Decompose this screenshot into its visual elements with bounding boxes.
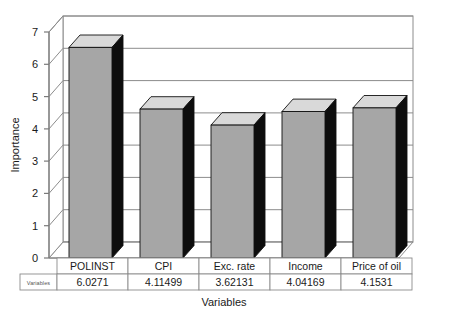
table-header-row: POLINST CPI Exc. rate Income Price of oi… [57, 258, 412, 274]
bar-side-face [183, 97, 194, 258]
bar-front-face [69, 47, 112, 258]
bar-side-face [112, 35, 123, 258]
bar-chart-3d: 7 6 5 4 3 2 1 0 Importance [0, 0, 449, 320]
table-header-cell-0: POLINST [70, 260, 116, 272]
y-tick-label-6: 6 [32, 58, 38, 70]
chart-figure: 7 6 5 4 3 2 1 0 Importance [0, 0, 449, 320]
table-value-cell-0: 6.0271 [76, 276, 108, 288]
table-header-cell-1: CPI [155, 260, 173, 272]
bar-front-face [211, 125, 254, 258]
y-axis: 7 6 5 4 3 2 1 0 [32, 26, 49, 264]
bar-side-face [254, 113, 265, 258]
bar-side-face [325, 99, 336, 258]
bar-side-face [396, 96, 407, 259]
y-axis-title: Importance [9, 117, 21, 172]
y-tick-label-7: 7 [32, 26, 38, 38]
table-value-cell-2: 3.62131 [216, 276, 254, 288]
bar-price-of-oil [353, 96, 407, 259]
bar-front-face [140, 109, 183, 258]
table-value-cell-1: 4.11499 [145, 276, 182, 288]
table-value-row: Variables 6.0271 4.11499 3.62131 4.04169… [20, 274, 412, 290]
bar-income [282, 99, 336, 258]
bar-exc-rate [211, 113, 265, 258]
y-tick-label-4: 4 [32, 123, 38, 135]
bar-front-face [353, 108, 396, 258]
data-table: POLINST CPI Exc. rate Income Price of oi… [20, 258, 412, 290]
table-header-cell-2: Exc. rate [214, 260, 256, 272]
y-tick-label-0: 0 [32, 252, 38, 264]
table-row-header-label: Variables [27, 280, 51, 286]
y-tick-label-5: 5 [32, 91, 38, 103]
bar-polinst [69, 35, 123, 258]
table-value-cell-4: 4.1531 [360, 276, 392, 288]
table-header-cell-3: Income [288, 260, 323, 272]
bar-cpi [140, 97, 194, 258]
y-tick-label-3: 3 [32, 155, 38, 167]
bar-front-face [282, 112, 325, 259]
x-axis-title: Variables [201, 296, 247, 308]
y-tick-label-1: 1 [32, 220, 38, 232]
left-wall [49, 16, 63, 258]
table-value-cell-3: 4.04169 [287, 276, 325, 288]
table-header-cell-4: Price of oil [352, 260, 401, 272]
y-tick-label-2: 2 [32, 187, 38, 199]
